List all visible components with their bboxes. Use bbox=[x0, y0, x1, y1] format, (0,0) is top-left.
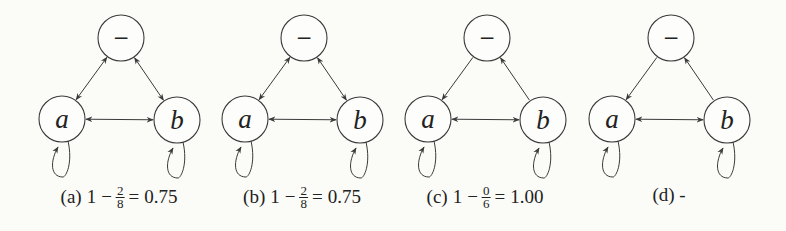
edge-top-left bbox=[76, 57, 107, 99]
self-loop-a bbox=[419, 141, 436, 177]
node-a-label: a bbox=[605, 104, 619, 134]
caption-lhs: 1 bbox=[270, 186, 280, 208]
self-loop-b bbox=[718, 142, 735, 178]
edge-left-right bbox=[636, 119, 703, 120]
caption-b: (b)1−28=0.75 bbox=[243, 184, 361, 209]
node-a-label: a bbox=[238, 104, 252, 134]
node-minus-label: − bbox=[479, 23, 494, 53]
edge-top-to-left bbox=[442, 57, 473, 99]
panel-d: −ab bbox=[589, 15, 750, 178]
caption-value: 1.00 bbox=[510, 186, 543, 208]
panel-a: −ab bbox=[39, 15, 200, 178]
caption-minus: − bbox=[467, 186, 478, 208]
node-b-label: b bbox=[720, 105, 734, 135]
caption-minus: − bbox=[285, 186, 296, 208]
caption-lhs: 1 bbox=[87, 186, 97, 208]
node-minus-label: − bbox=[113, 23, 128, 53]
node-minus-label: − bbox=[663, 23, 678, 53]
caption-equals: = bbox=[128, 186, 139, 208]
caption-minus: − bbox=[101, 186, 112, 208]
caption-a: (a)1−28=0.75 bbox=[61, 184, 178, 209]
panel-c: −ab bbox=[405, 15, 566, 178]
caption-tag: (c) bbox=[427, 186, 448, 208]
self-loop-a bbox=[603, 141, 620, 177]
edge-left-right bbox=[452, 119, 519, 120]
fraction-denominator: 6 bbox=[483, 198, 490, 210]
caption-c: (c)1−06=1.00 bbox=[427, 184, 544, 209]
self-loop-a bbox=[53, 141, 70, 177]
caption-equals: = bbox=[312, 186, 323, 208]
caption-fraction: 06 bbox=[482, 185, 491, 210]
fraction-denominator: 8 bbox=[300, 198, 307, 210]
caption-value: 0.75 bbox=[328, 186, 361, 208]
node-minus-label: − bbox=[296, 23, 311, 53]
fraction-denominator: 8 bbox=[117, 198, 124, 210]
edge-top-right bbox=[318, 58, 347, 100]
caption-tag: (b) bbox=[243, 186, 265, 208]
self-loop-a bbox=[236, 141, 253, 177]
self-loop-b bbox=[168, 142, 185, 178]
node-b-label: b bbox=[170, 105, 184, 135]
edge-top-to-left bbox=[626, 57, 657, 99]
edge-top-right bbox=[135, 58, 164, 100]
node-b-label: b bbox=[353, 105, 367, 135]
edge-right-to-top bbox=[501, 58, 530, 100]
caption-equals: = bbox=[494, 186, 505, 208]
panel-b: −ab bbox=[222, 15, 383, 178]
node-b-label: b bbox=[536, 105, 550, 135]
edge-left-right bbox=[269, 119, 336, 120]
caption-fraction: 28 bbox=[299, 185, 308, 210]
caption-d: (d) - bbox=[652, 184, 685, 206]
edge-left-right bbox=[86, 119, 153, 120]
self-loop-b bbox=[351, 142, 368, 178]
node-a-label: a bbox=[55, 104, 69, 134]
caption-fraction: 28 bbox=[116, 185, 125, 210]
edge-right-to-top bbox=[685, 58, 714, 100]
caption-tag: (a) bbox=[61, 186, 82, 208]
self-loop-b bbox=[534, 142, 551, 178]
node-a-label: a bbox=[421, 104, 435, 134]
caption-value: 0.75 bbox=[144, 186, 177, 208]
edge-top-left bbox=[259, 57, 290, 99]
caption-lhs: 1 bbox=[453, 186, 463, 208]
